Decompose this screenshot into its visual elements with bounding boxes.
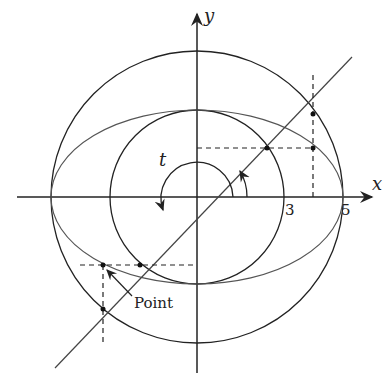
point-inner-upper (265, 146, 270, 151)
point-ellipse-upper (311, 146, 316, 151)
x-axis-label: x (372, 173, 382, 194)
point-inner-lower (138, 263, 143, 268)
y-axis-label: y (203, 5, 215, 26)
point-outer-upper (311, 112, 316, 117)
angle-label-t: t (159, 149, 167, 170)
point-ellipse-lower (101, 263, 106, 268)
tick-label-3: 3 (285, 201, 295, 219)
parametric-ellipse-diagram: x y 3 5 t Point (0, 0, 387, 387)
point-outer-lower (101, 307, 106, 312)
angle-arc-small (240, 171, 247, 197)
point-label: Point (134, 294, 173, 312)
angle-ray (55, 57, 352, 368)
tick-label-5: 5 (341, 201, 351, 219)
